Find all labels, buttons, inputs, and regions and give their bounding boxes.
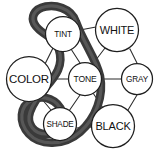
node-gray[interactable]: GRAY bbox=[122, 64, 153, 95]
node-color-label: COLOR bbox=[9, 73, 49, 85]
node-black-label: BLACK bbox=[95, 120, 131, 132]
node-gray-label: GRAY bbox=[126, 75, 149, 84]
node-black[interactable]: BLACK bbox=[92, 105, 135, 148]
node-tint[interactable]: TINT bbox=[46, 17, 81, 52]
node-white-label: WHITE bbox=[100, 24, 134, 36]
edge-black-gray bbox=[128, 95, 137, 110]
edge-white-gray bbox=[130, 49, 137, 63]
node-color[interactable]: COLOR bbox=[7, 57, 52, 102]
node-white[interactable]: WHITE bbox=[96, 9, 139, 52]
diagram-canvas: TINT WHITE COLOR TONE GRAY SHADE bbox=[0, 0, 159, 156]
edge-tint-tone bbox=[71, 49, 80, 63]
node-tone-label: TONE bbox=[74, 74, 97, 84]
node-tint-label: TINT bbox=[54, 30, 72, 39]
node-shade-label: SHADE bbox=[46, 120, 74, 129]
edge-shade-tone bbox=[69, 95, 80, 111]
edge-color-tint bbox=[45, 48, 53, 64]
node-shade[interactable]: SHADE bbox=[44, 108, 77, 141]
node-tone[interactable]: TONE bbox=[69, 63, 102, 96]
color-relationship-diagram: TINT WHITE COLOR TONE GRAY SHADE bbox=[0, 0, 159, 156]
